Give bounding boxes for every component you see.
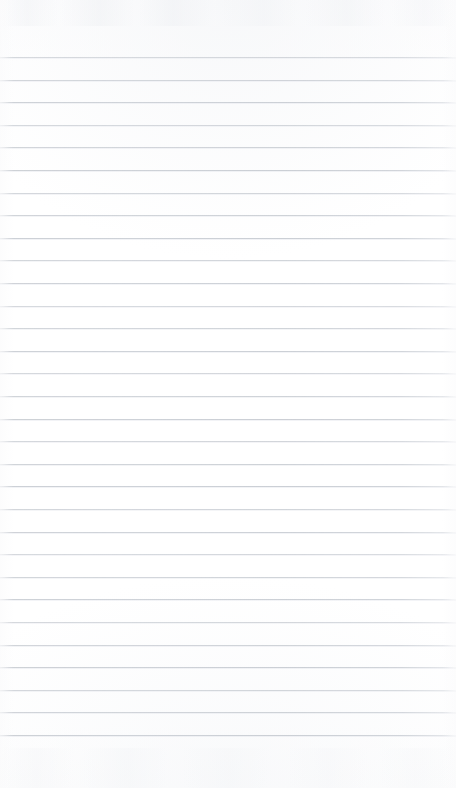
- rule-line: [0, 486, 456, 487]
- rule-line: [0, 260, 456, 261]
- scan-artifact-bottom: [0, 748, 456, 788]
- rule-line: [0, 577, 456, 578]
- rule-line: [0, 690, 456, 691]
- rule-line: [0, 712, 456, 713]
- rule-line: [0, 396, 456, 397]
- rule-line: [0, 464, 456, 465]
- rule-line: [0, 622, 456, 623]
- rule-line: [0, 532, 456, 533]
- rule-line: [0, 509, 456, 510]
- rule-line: [0, 351, 456, 352]
- rule-line: [0, 373, 456, 374]
- ruled-lines-layer: [0, 0, 456, 788]
- rule-line: [0, 147, 456, 148]
- rule-line: [0, 419, 456, 420]
- rule-line: [0, 328, 456, 329]
- rule-line: [0, 599, 456, 600]
- page-edge-vignette: [0, 0, 456, 788]
- rule-line: [0, 102, 456, 103]
- scanned-page: [0, 0, 456, 788]
- rule-line: [0, 125, 456, 126]
- rule-line: [0, 735, 456, 736]
- rule-line: [0, 441, 456, 442]
- rule-line: [0, 283, 456, 284]
- paper-background: [0, 0, 456, 788]
- scan-artifact-top: [0, 0, 456, 26]
- rule-line: [0, 80, 456, 81]
- rule-line: [0, 170, 456, 171]
- rule-line: [0, 215, 456, 216]
- rule-line: [0, 238, 456, 239]
- rule-line: [0, 57, 456, 58]
- rule-line: [0, 554, 456, 555]
- rule-line: [0, 645, 456, 646]
- rule-line: [0, 306, 456, 307]
- rule-line: [0, 667, 456, 668]
- rule-line: [0, 193, 456, 194]
